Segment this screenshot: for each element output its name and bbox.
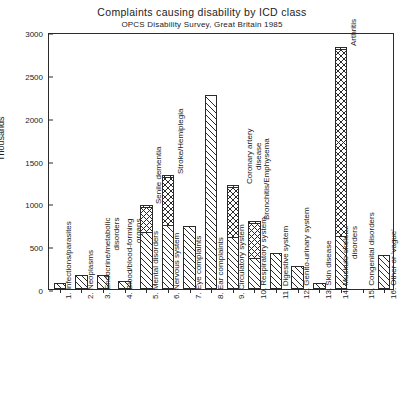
bar-annotation: Coronary arterydisease	[245, 128, 263, 184]
x-axis-category-label: 13. Skin disease	[324, 240, 333, 299]
y-axis-tick-label: 1000	[25, 201, 49, 210]
x-axis-tick-mark	[81, 289, 82, 293]
x-axis-tick-mark	[319, 289, 320, 293]
chart-container: Complaints causing disability by ICD cla…	[0, 0, 404, 412]
y-axis-tick-mark	[49, 205, 53, 206]
x-axis-tick-mark	[298, 289, 299, 293]
chart-title: Complaints causing disability by ICD cla…	[0, 6, 404, 18]
y-axis-tick-mark	[49, 76, 53, 77]
x-axis-tick-mark	[233, 289, 234, 293]
x-axis-tick-mark	[211, 289, 212, 293]
y-axis-tick-mark	[49, 119, 53, 120]
x-axis-tick-mark	[146, 289, 147, 293]
x-axis-category-label: 5. Mental disorders	[151, 231, 160, 299]
x-axis-category-label: 7. Eye complaints	[194, 236, 203, 299]
y-axis-tick-label: 0	[39, 287, 49, 296]
y-axis-tick-label: 1500	[25, 158, 49, 167]
y-axis-tick-mark	[49, 34, 53, 35]
x-axis-category-label: 2. Neoplasms	[86, 250, 95, 299]
x-axis-tick-mark	[190, 289, 191, 293]
x-axis-category-label: 12. Genito-urinary system	[302, 207, 311, 299]
y-axis-label: Thousands	[0, 116, 6, 161]
y-axis-tick-mark	[49, 162, 53, 163]
y-axis-tick-label: 3000	[25, 30, 49, 39]
bar-annotation: Bronchitis/Emphysema	[262, 139, 271, 221]
x-axis-tick-mark	[384, 289, 385, 293]
bar-sub-segment	[162, 177, 175, 226]
x-axis-category-label: 6. Nervous system	[172, 233, 181, 299]
bar-sub-segment	[140, 207, 153, 233]
x-axis-tick-mark	[254, 289, 255, 293]
bar-sub-segment	[335, 49, 348, 237]
bar-sub-segment	[227, 187, 240, 238]
x-axis-category-label: 11. Digestive system	[281, 226, 290, 299]
y-axis-tick-mark	[49, 248, 53, 249]
y-axis-tick-label: 2000	[25, 115, 49, 124]
x-axis-tick-mark	[276, 289, 277, 293]
x-axis-category-label: 15. Congenital disorders	[367, 212, 376, 299]
y-axis-tick-label: 500	[30, 244, 49, 253]
y-axis-tick-mark	[49, 291, 53, 292]
y-axis-tick-label: 2500	[25, 72, 49, 81]
x-axis-tick-mark	[168, 289, 169, 293]
chart-subtitle: OPCS Disability Survey, Great Britain 19…	[0, 20, 404, 29]
x-axis-category-label: 1. Infections/parasites	[64, 221, 73, 299]
bar-sub-segment	[248, 223, 261, 259]
plot-area: 0500100015002000250030001. Infections/pa…	[48, 33, 394, 290]
x-axis-category-label: 16. Other or 'vague'	[389, 229, 398, 299]
x-axis-tick-mark	[60, 289, 61, 293]
x-axis-category-label: 14. Muskulo-skeletaldisorders	[341, 226, 359, 299]
x-axis-category-label: 8. Ear complaints	[216, 237, 225, 299]
bar-annotation: Stroke/Hemiplegia	[176, 109, 185, 174]
bar-annotation: Arthritis	[349, 19, 358, 46]
x-axis-tick-mark	[363, 289, 364, 293]
